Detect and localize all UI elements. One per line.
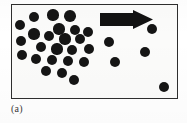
particle-dot (104, 37, 115, 48)
panel-caption: (a) (11, 103, 23, 115)
particle-dot (31, 54, 41, 64)
particle-dot (17, 50, 27, 60)
particle-dot (140, 47, 150, 57)
particle-dot (84, 44, 95, 55)
figure-panel-a: (a) (0, 0, 187, 123)
particle-dot (15, 20, 25, 30)
particle-dot (79, 57, 89, 67)
particle-panel (11, 4, 178, 99)
particle-dot (75, 34, 85, 44)
particle-dot (69, 75, 79, 85)
particle-dot (47, 55, 58, 66)
particle-dot (29, 12, 40, 23)
particle-dot (51, 43, 62, 54)
particle-dot (44, 31, 54, 41)
particle-dot (41, 66, 51, 76)
particle-dot (63, 56, 74, 67)
flow-arrow-icon (100, 10, 154, 30)
particle-dot (159, 82, 169, 92)
particle-dot (57, 68, 67, 78)
particle-dot (16, 36, 27, 47)
particle-dot (59, 33, 70, 44)
particle-dot (110, 57, 120, 67)
particle-dot (36, 42, 47, 53)
particle-dot (47, 9, 58, 20)
particle-dot (64, 10, 76, 22)
particle-dot (28, 28, 39, 39)
particle-dot (67, 45, 77, 55)
